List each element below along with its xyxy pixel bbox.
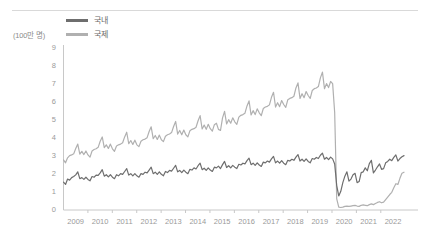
x-axis-tick-2022: 2022 — [379, 217, 407, 226]
y-axis-tick-7: 7 — [40, 79, 56, 88]
chart-figure: (100만 명) 국내 국제 0123456789 20092010201120… — [0, 0, 430, 246]
y-axis-tick-6: 6 — [40, 97, 56, 106]
y-axis-tick-5: 5 — [40, 115, 56, 124]
y-axis-tick-9: 9 — [40, 43, 56, 52]
line-series-domestic — [64, 153, 405, 196]
y-axis-tick-1: 1 — [40, 187, 56, 196]
y-axis-tick-8: 8 — [40, 61, 56, 70]
y-axis-tick-3: 3 — [40, 151, 56, 160]
plot-area — [0, 0, 430, 246]
y-axis-tick-4: 4 — [40, 133, 56, 142]
y-axis-tick-2: 2 — [40, 169, 56, 178]
axis-lines — [64, 45, 419, 210]
line-series-international — [64, 72, 405, 207]
y-axis-tick-0: 0 — [40, 205, 56, 214]
